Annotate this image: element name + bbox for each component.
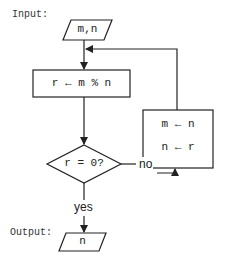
remainder-node-text: r ← m % n [33,77,130,89]
output-label: Output: [10,227,52,238]
decision-node-text: r = 0? [47,157,121,169]
swap-node-line1: m ← n [143,118,213,130]
edge-label-no: no [138,157,153,171]
swap-node-line2: n ← r [143,141,213,153]
output-node-text: n [59,235,106,247]
input-node-text: m,n [63,23,112,35]
edge-label-yes: yes [73,200,94,214]
input-label: Input: [12,9,48,20]
flowchart-canvas [0,0,225,265]
